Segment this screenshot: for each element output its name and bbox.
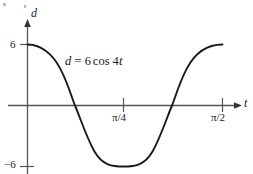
x-tick-label-pi-over-2: π/2 (211, 112, 225, 123)
equation-variable: t (119, 54, 123, 68)
y-axis-arrowhead (24, 19, 31, 27)
y-tick-label-neg-6: −6 (4, 159, 16, 170)
cosine-graph-figure: d t 6 −6 π/4 π/2 d=6cos4t (0, 0, 253, 174)
equation-function: cos (93, 54, 110, 68)
equation-annotation: d=6cos4t (65, 55, 123, 68)
x-axis-arrowhead (234, 102, 242, 109)
equation-equals: = (74, 54, 81, 68)
plot-area (0, 0, 253, 174)
equation-lhs: d (65, 54, 71, 68)
y-tick-label-6: 6 (10, 39, 16, 50)
x-tick-label-pi-over-4: π/4 (112, 112, 126, 123)
x-axis-label: t (244, 97, 247, 109)
y-axis-label: d (31, 7, 37, 19)
equation-amplitude: 6 (85, 54, 91, 68)
